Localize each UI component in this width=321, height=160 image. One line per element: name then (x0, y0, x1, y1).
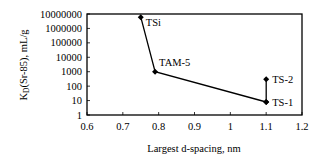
y-tick-label: 10000000 (40, 9, 82, 20)
y-tick-label: 100000 (51, 37, 83, 48)
chart: 110100100010000100000100000010000000 0.6… (0, 0, 321, 160)
x-tick-label: 0.6 (80, 121, 93, 132)
y-tick-label: 100 (66, 81, 82, 92)
y-axis-label: KD(Sr-85), mL/g (18, 29, 31, 101)
point-labels: TSiTAM-5TS-1TS-2 (146, 17, 293, 108)
x-tick-label: 1.1 (260, 121, 273, 132)
point-label: TSi (146, 17, 161, 28)
x-tick-label: 0.8 (152, 121, 165, 132)
y-tick-label: 1000 (61, 66, 82, 77)
x-tick-label: 0.9 (188, 121, 201, 132)
data-point-marker (263, 99, 269, 105)
x-tick-label: 1 (228, 121, 233, 132)
y-tick-label: 1000000 (45, 23, 82, 34)
point-label: TAM-5 (159, 57, 190, 68)
y-tick-label: 1 (77, 110, 82, 121)
x-tick-label: 0.7 (116, 121, 129, 132)
plot-area (87, 14, 302, 115)
plot-border (87, 14, 302, 115)
y-axis: 110100100010000100000100000010000000 (40, 9, 90, 121)
y-tick-label: 10000 (56, 52, 82, 63)
y-tick-label: 10 (72, 95, 83, 106)
data-point-marker (152, 69, 158, 75)
point-label: TS-1 (272, 97, 293, 108)
x-axis-label: Largest d-spacing, nm (147, 143, 240, 154)
x-tick-label: 1.2 (295, 121, 308, 132)
data-point-marker (138, 14, 144, 20)
data-point-marker (263, 76, 269, 82)
point-label: TS-2 (272, 74, 293, 85)
